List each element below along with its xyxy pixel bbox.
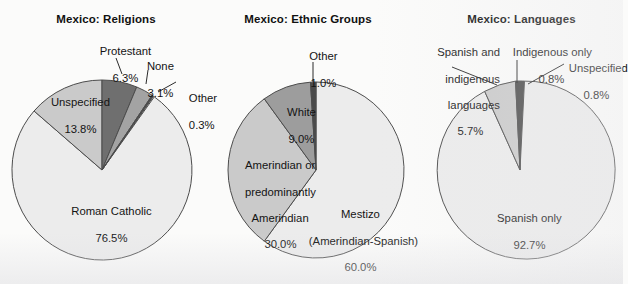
label-unspecified-languages: Unspecified 0.8% — [550, 49, 624, 115]
panel-title-religions: Mexico: Religions — [0, 13, 206, 25]
label-spanish-indigenous-line3: languages — [448, 99, 500, 111]
label-roman-catholic-name: Roman Catholic — [71, 205, 151, 217]
label-spanish-indigenous: Spanish and indigenous languages 5.7% — [403, 33, 500, 152]
label-amerindian-line1: Amerindian or — [245, 159, 315, 171]
label-spanish-indigenous-line1: Spanish and — [437, 46, 500, 58]
label-white-name: White — [287, 106, 316, 118]
label-spanish-indigenous-line2: indigenous — [445, 73, 500, 85]
label-unspecified-religions-name: Unspecified — [51, 96, 110, 108]
label-spanish-only-name: Spanish only — [497, 212, 562, 224]
label-mestizo: Mestizo (Amerindian-Spanish) 60.0% — [290, 195, 412, 284]
label-unspecified-religions-pct: 13.8% — [64, 123, 96, 135]
label-roman-catholic: Roman Catholic 76.5% — [37, 192, 167, 258]
label-unspecified-religions: Unspecified 13.8% — [23, 83, 119, 149]
label-other-ethnic-name: Other — [309, 50, 337, 62]
panel-religions: Mexico: Religions Protestant 6.3% None 3… — [0, 0, 206, 284]
label-white-pct: 9.0% — [289, 133, 315, 145]
label-mestizo-pct: 60.0% — [344, 261, 376, 273]
panel-ethnic: Mexico: Ethnic Groups Other 1.0% White 9… — [206, 0, 410, 284]
label-mestizo-line2: (Amerindian-Spanish) — [309, 235, 418, 247]
label-none-name: None — [147, 60, 174, 72]
label-unspecified-languages-name: Unspecified — [569, 62, 628, 74]
label-other-ethnic-pct: 1.0% — [311, 77, 337, 89]
label-spanish-indigenous-pct: 5.7% — [422, 125, 519, 138]
label-spanish-only-pct: 92.7% — [513, 239, 545, 251]
panel-title-ethnic: Mexico: Ethnic Groups — [206, 13, 410, 25]
label-mestizo-line1: Mestizo — [341, 208, 380, 220]
panel-languages: Mexico: Languages Spanish and indigenous… — [410, 0, 623, 284]
label-spanish-only: Spanish only 92.7% — [475, 199, 565, 265]
label-unspecified-languages-pct: 0.8% — [584, 89, 610, 101]
label-roman-catholic-pct: 76.5% — [95, 232, 127, 244]
panel-title-languages: Mexico: Languages — [410, 13, 623, 25]
